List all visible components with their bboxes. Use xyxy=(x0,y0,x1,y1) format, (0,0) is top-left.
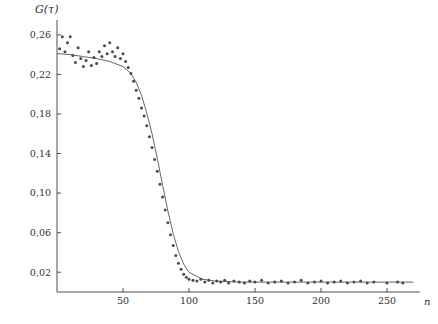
data-point xyxy=(156,170,159,173)
x-axis-label: n xyxy=(424,296,430,307)
data-point xyxy=(346,282,349,285)
data-point xyxy=(191,279,194,282)
data-point xyxy=(172,244,175,247)
data-point xyxy=(66,41,69,44)
data-point xyxy=(135,89,138,92)
y-tick-label: 0,06 xyxy=(30,227,51,238)
data-point xyxy=(273,281,276,284)
data-point xyxy=(106,52,109,55)
data-point xyxy=(90,64,93,67)
data-point xyxy=(108,41,111,44)
data-point xyxy=(219,281,222,284)
data-point xyxy=(320,280,323,283)
data-point xyxy=(195,280,198,283)
data-point xyxy=(300,279,303,282)
data-point xyxy=(232,280,235,283)
x-tick-label: 200 xyxy=(312,295,330,306)
data-point xyxy=(82,65,85,68)
data-point xyxy=(211,282,214,285)
data-point xyxy=(359,280,362,283)
data-point xyxy=(63,50,66,53)
x-tick-label: 50 xyxy=(117,295,129,306)
data-point xyxy=(132,80,135,83)
data-point xyxy=(92,56,95,59)
y-tick-label: 0,02 xyxy=(30,267,51,278)
data-point xyxy=(169,233,172,236)
x-tick-label: 150 xyxy=(246,295,264,306)
data-point xyxy=(114,55,117,58)
data-point xyxy=(243,282,246,285)
data-point xyxy=(372,281,375,284)
data-point xyxy=(188,278,191,281)
data-point xyxy=(227,282,230,285)
data-point xyxy=(124,60,127,63)
data-points xyxy=(58,35,404,284)
data-point xyxy=(333,281,336,284)
data-point xyxy=(140,107,143,110)
data-point xyxy=(58,47,61,50)
data-point xyxy=(69,35,72,38)
data-point xyxy=(223,279,226,282)
data-point xyxy=(71,54,74,57)
data-point xyxy=(386,282,389,285)
y-tick-label: 0,26 xyxy=(30,29,51,40)
x-tick-label: 250 xyxy=(378,295,396,306)
data-point xyxy=(98,50,101,53)
y-tick-label: 0,18 xyxy=(30,108,51,119)
data-point xyxy=(77,46,80,49)
y-tick-label: 0,14 xyxy=(30,148,51,159)
data-point xyxy=(85,59,88,62)
data-point xyxy=(143,114,146,117)
data-point xyxy=(280,280,283,283)
data-point xyxy=(260,279,263,282)
data-point xyxy=(164,208,167,211)
scatter-plot: 0,020,060,100,140,180,220,26501001502002… xyxy=(0,0,438,324)
data-point xyxy=(199,278,202,281)
data-point xyxy=(116,46,119,49)
data-point xyxy=(215,280,218,283)
chart-container: 0,020,060,100,140,180,220,26501001502002… xyxy=(0,0,438,324)
data-point xyxy=(174,254,177,257)
data-point xyxy=(103,44,106,47)
data-point xyxy=(254,281,257,284)
data-point xyxy=(185,276,188,279)
data-point xyxy=(87,50,90,53)
data-point xyxy=(145,124,148,127)
data-point xyxy=(401,282,404,285)
data-point xyxy=(177,262,180,265)
data-point xyxy=(313,281,316,284)
data-point xyxy=(119,57,122,60)
data-point xyxy=(306,282,309,285)
data-point xyxy=(137,97,140,100)
data-point xyxy=(153,158,156,161)
data-point xyxy=(248,280,251,283)
data-point xyxy=(203,281,206,284)
data-point xyxy=(238,281,241,284)
data-point xyxy=(267,282,270,285)
data-point xyxy=(158,183,161,186)
data-point xyxy=(100,55,103,58)
data-point xyxy=(182,273,185,276)
data-point xyxy=(79,57,82,60)
data-point xyxy=(148,135,151,138)
data-point xyxy=(339,280,342,283)
data-point xyxy=(111,50,114,53)
data-point xyxy=(180,268,183,271)
data-point xyxy=(207,279,210,282)
y-tick-label: 0,10 xyxy=(30,187,51,198)
data-point xyxy=(166,221,169,224)
data-point xyxy=(353,281,356,284)
y-tick-label: 0,22 xyxy=(30,69,51,80)
y-axis-label: G(τ) xyxy=(35,3,58,16)
data-point xyxy=(61,35,64,38)
fit-curve xyxy=(57,54,413,282)
data-point xyxy=(326,282,329,285)
data-point xyxy=(95,62,98,65)
data-point xyxy=(129,72,132,75)
data-point xyxy=(127,66,130,69)
data-point xyxy=(366,282,369,285)
data-point xyxy=(287,282,290,285)
data-point xyxy=(396,281,399,284)
data-point xyxy=(74,61,77,64)
data-point xyxy=(151,146,154,149)
